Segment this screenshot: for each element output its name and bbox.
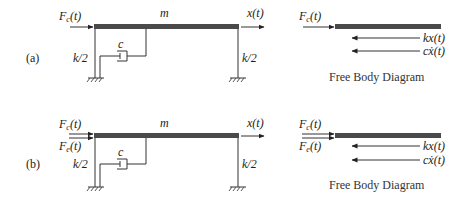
panel-b: (b) Fc(t) Fe(t) m x(t) k/2 c k/2 xyxy=(26,116,445,192)
fbd-a-beam xyxy=(335,24,441,29)
fbd-b-force-fe-label: Fe(t) xyxy=(298,139,321,154)
panel-b-left-ground-icon xyxy=(87,187,104,191)
panel-a-free-body-diagram: Fc(t) kx(t) cẋ(t) Free Body Diagram xyxy=(298,9,445,84)
panel-a-label: (a) xyxy=(26,51,39,65)
panel-a-mass-label: m xyxy=(160,6,169,20)
panel-b-displacement-label: x(t) xyxy=(246,116,264,130)
panel-b-spring-left-label: k/2 xyxy=(73,157,88,171)
fbd-a-caption: Free Body Diagram xyxy=(329,70,425,84)
panel-b-mass-label: m xyxy=(160,116,169,130)
panel-a-force-fc-label: Fc(t) xyxy=(58,9,81,24)
fbd-b-spring-force-label: kx(t) xyxy=(423,139,445,153)
fbd-b-damping-force-label: cẋ(t) xyxy=(423,153,445,167)
fbd-a-damping-force-label: cẋ(t) xyxy=(423,44,445,58)
panel-b-spring-right-label: k/2 xyxy=(242,157,257,171)
panel-b-free-body-diagram: Fc(t) Fe(t) kx(t) cẋ(t) Free Body Diagra… xyxy=(298,117,445,192)
panel-a: (a) Fc(t) m x(t) k/2 c xyxy=(26,6,445,84)
fbd-b-beam xyxy=(335,133,441,138)
panel-a-displacement-label: x(t) xyxy=(246,6,264,20)
panel-b-label: (b) xyxy=(26,157,40,171)
panel-a-damper-label: c xyxy=(118,37,124,51)
panel-b-damper-label: c xyxy=(118,145,124,159)
panel-a-left-ground-icon xyxy=(87,78,104,82)
panel-a-beam xyxy=(94,24,239,29)
vibration-diagram: (a) Fc(t) m x(t) k/2 c xyxy=(0,0,472,200)
panel-b-beam xyxy=(94,133,239,138)
panel-b-right-ground-icon xyxy=(229,187,246,191)
fbd-b-caption: Free Body Diagram xyxy=(329,178,425,192)
fbd-b-force-fc-label: Fc(t) xyxy=(298,117,321,132)
panel-a-spring-left-label: k/2 xyxy=(73,51,88,65)
panel-b-force-fc-label: Fc(t) xyxy=(58,117,81,132)
panel-b-force-fe-label: Fe(t) xyxy=(58,139,81,154)
panel-a-spring-right-label: k/2 xyxy=(242,51,257,65)
fbd-a-spring-force-label: kx(t) xyxy=(423,31,445,45)
fbd-a-force-fc-label: Fc(t) xyxy=(298,9,321,24)
panel-a-right-ground-icon xyxy=(229,78,246,82)
